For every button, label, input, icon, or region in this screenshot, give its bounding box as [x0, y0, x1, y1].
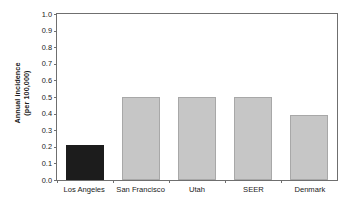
x-label-utah: Utah — [169, 184, 225, 195]
y-tick-label: 0.4 — [42, 108, 52, 119]
y-tick-label: 0.9 — [42, 25, 52, 36]
y-tick-label: 0.2 — [42, 141, 52, 152]
y-tick-label: 1.0 — [42, 9, 52, 20]
x-label-los-angeles: Los Angeles — [56, 184, 112, 195]
y-tick-label: 0.7 — [42, 58, 52, 69]
y-tick-label: 0.5 — [42, 92, 52, 103]
bar-slot — [225, 14, 281, 180]
x-tick-mark — [225, 180, 226, 183]
x-tick-mark — [113, 180, 114, 183]
x-tick-mark — [169, 180, 170, 183]
bar-utah[interactable] — [178, 97, 216, 180]
x-tick-mark — [281, 180, 282, 183]
x-label-denmark: Denmark — [282, 184, 338, 195]
bar-denmark[interactable] — [290, 115, 328, 180]
y-tick-label: 0.1 — [42, 158, 52, 169]
bar-los-angeles[interactable] — [66, 145, 104, 180]
chart-figure: Annual incidence (per 100,000) 1.0 0.9 0… — [0, 0, 344, 211]
y-tick-label: 0.0 — [42, 175, 52, 186]
bar-slot — [57, 14, 113, 180]
bar-slot — [169, 14, 225, 180]
bar-seer[interactable] — [234, 97, 272, 180]
x-tick-mark — [57, 180, 58, 183]
bar-slot — [281, 14, 337, 180]
x-axis-labels: Los Angeles San Francisco Utah SEER Denm… — [56, 184, 338, 195]
x-label-seer: SEER — [225, 184, 281, 195]
y-tick-label: 0.8 — [42, 42, 52, 53]
plot-area: 1.0 0.9 0.8 0.7 0.6 0.5 0.4 0.3 0.2 0.1 … — [56, 13, 338, 181]
y-tick-label: 0.3 — [42, 125, 52, 136]
x-label-san-francisco: San Francisco — [112, 184, 168, 195]
bar-series — [57, 14, 337, 180]
y-axis-title: Annual incidence (per 100,000) — [8, 0, 36, 185]
bar-san-francisco[interactable] — [122, 97, 160, 180]
y-tick-label: 0.6 — [42, 75, 52, 86]
bar-slot — [113, 14, 169, 180]
y-axis-title-line2: (per 100,000) — [22, 62, 31, 123]
